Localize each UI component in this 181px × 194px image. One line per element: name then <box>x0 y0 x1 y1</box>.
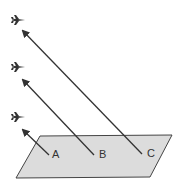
point-label-b: B <box>99 149 106 160</box>
jet-icon-a <box>11 112 25 122</box>
point-label-a: A <box>52 149 59 160</box>
jet-icon-c <box>11 15 25 25</box>
jet-icon-b <box>11 62 25 72</box>
diagram-svg <box>0 0 181 194</box>
diagram: A B C <box>0 0 181 194</box>
point-label-c: C <box>147 148 155 159</box>
